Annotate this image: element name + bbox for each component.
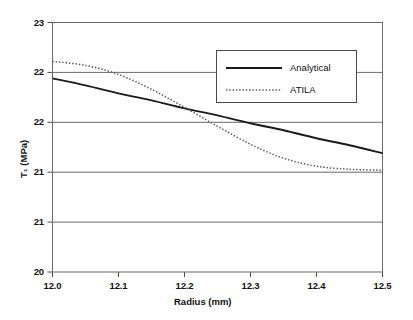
x-tick-marks bbox=[53, 272, 383, 277]
x-tick-label-1: 12.1 bbox=[101, 280, 137, 291]
y-tick-label-4: 21 bbox=[20, 216, 44, 227]
legend-label-analytical: Analytical bbox=[290, 62, 331, 73]
y-tick-label-5: 20 bbox=[20, 266, 44, 277]
y-axis-title: T₁ (MPa) bbox=[18, 140, 29, 178]
x-tick-label-5: 12.5 bbox=[365, 280, 401, 291]
chart-figure: 232222212120 12.012.112.212.312.412.5 Ra… bbox=[0, 0, 413, 320]
y-tick-marks bbox=[48, 23, 53, 273]
x-tick-label-2: 12.2 bbox=[167, 280, 203, 291]
x-tick-label-4: 12.4 bbox=[299, 280, 335, 291]
plot-canvas bbox=[0, 0, 413, 320]
y-tick-label-1: 22 bbox=[20, 66, 44, 77]
legend-box bbox=[217, 51, 357, 103]
x-tick-label-3: 12.3 bbox=[233, 280, 269, 291]
x-axis-title: Radius (mm) bbox=[174, 296, 232, 307]
legend-label-atila: ATILA bbox=[290, 84, 316, 95]
y-tick-label-0: 23 bbox=[20, 17, 44, 28]
x-tick-label-0: 12.0 bbox=[35, 280, 71, 291]
y-tick-label-2: 22 bbox=[20, 116, 44, 127]
